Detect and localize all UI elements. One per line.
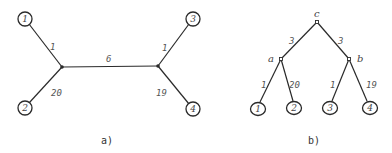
leaf-node-a-1: 1 (18, 12, 32, 26)
leaf-node-b-4: 4 (363, 102, 378, 115)
weight-a-4: 19 (156, 88, 167, 98)
caption-b: b) (308, 135, 320, 146)
weight-a-3: 1 (162, 43, 167, 53)
internal-node-right (156, 64, 160, 68)
weight-a-2: 20 (51, 88, 62, 98)
figure-b: c a b 3 3 1 20 1 19 1 2 3 4 b) (251, 8, 378, 146)
svg-text:2: 2 (290, 103, 297, 113)
weight-a-1: 1 (50, 42, 55, 52)
weight-b-b-3: 1 (330, 80, 335, 90)
weight-b-a-2: 20 (289, 80, 300, 90)
weight-b-b-4: 19 (366, 80, 377, 90)
edge-b-b-4 (349, 59, 367, 101)
internal-node-left (60, 65, 64, 69)
svg-text:4: 4 (189, 104, 196, 114)
svg-text:4: 4 (366, 103, 373, 113)
weight-b-a-1: 1 (261, 80, 266, 90)
weight-b-c-b: 3 (337, 36, 343, 46)
svg-text:2: 2 (21, 103, 28, 113)
svg-text:1: 1 (255, 104, 261, 114)
internal-node-b (348, 58, 351, 61)
edge-a-1-L (29, 24, 62, 67)
leaf-node-a-3: 3 (186, 12, 200, 26)
edge-b-c-b (317, 22, 349, 59)
node-label-b: b (357, 53, 363, 64)
edge-b-c-a (281, 22, 317, 59)
leaf-node-b-3: 3 (323, 102, 338, 115)
node-label-c: c (314, 8, 320, 19)
internal-node-c (316, 21, 319, 24)
internal-node-a (280, 58, 283, 61)
figure-a: 1 20 6 1 19 1 2 3 4 a) (18, 12, 200, 146)
node-label-a: a (268, 53, 274, 64)
caption-a: a) (101, 135, 113, 146)
diagram-canvas: 1 20 6 1 19 1 2 3 4 a) c (0, 0, 392, 153)
edge-a-4-R (158, 66, 189, 104)
svg-text:3: 3 (327, 103, 333, 113)
svg-text:3: 3 (190, 14, 196, 24)
svg-text:1: 1 (22, 14, 28, 24)
leaf-node-b-2: 2 (287, 102, 302, 115)
leaf-node-a-2: 2 (18, 101, 32, 115)
weight-a-6: 6 (106, 54, 111, 64)
leaf-node-b-1: 1 (251, 103, 266, 116)
leaf-node-a-4: 4 (186, 102, 200, 116)
weight-b-c-a: 3 (288, 36, 294, 46)
edge-a-L-R (62, 66, 158, 67)
